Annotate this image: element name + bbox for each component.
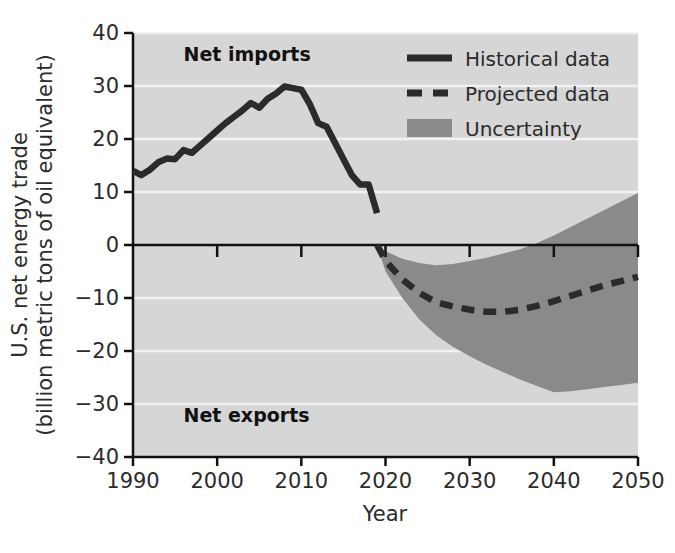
y-tick-label: 0	[106, 233, 119, 257]
x-tick-label: 2010	[275, 469, 328, 493]
x-tick-label: 2030	[443, 469, 496, 493]
x-tick-label: 2000	[190, 469, 243, 493]
y-tick-label: −40	[75, 445, 119, 469]
y-tick-label: 10	[92, 180, 119, 204]
x-axis-title: Year	[362, 502, 408, 526]
legend-label: Uncertainty	[465, 117, 582, 141]
y-tick-label: 20	[92, 127, 119, 151]
y-tick-label: 30	[92, 74, 119, 98]
net-energy-trade-chart: 1990200020102020203020402050 403020100−1…	[0, 0, 675, 553]
chart-legend: Historical dataProjected dataUncertainty	[407, 47, 610, 141]
legend-label: Historical data	[465, 47, 610, 71]
y-tick-label: 40	[92, 21, 119, 45]
legend-swatch-uncertainty	[407, 119, 452, 137]
legend-label: Projected data	[465, 82, 610, 106]
y-tick-label: −30	[75, 392, 119, 416]
x-tick-label: 2020	[359, 469, 412, 493]
y-tick-label: −10	[75, 286, 119, 310]
net-exports-label: Net exports	[184, 404, 310, 426]
y-axis-title-line2: (billion metric tons of oil equivalent)	[33, 54, 57, 435]
y-axis-title-line1: U.S. net energy trade	[8, 132, 32, 358]
y-tick-label: −20	[75, 339, 119, 363]
chart-figure: 1990200020102020203020402050 403020100−1…	[0, 0, 675, 553]
x-tick-label: 2050	[611, 469, 664, 493]
net-imports-label: Net imports	[184, 43, 311, 65]
x-tick-label: 1990	[106, 469, 159, 493]
x-tick-label: 2040	[527, 469, 580, 493]
